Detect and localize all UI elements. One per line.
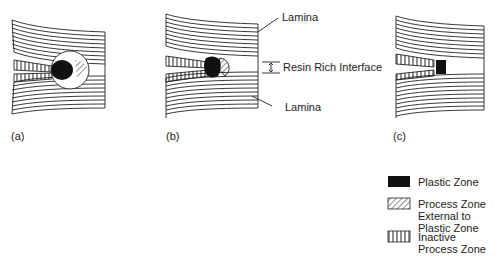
panel-c-diagram bbox=[396, 16, 484, 118]
legend-process-label: Process Zone External to Plastic Zone bbox=[418, 198, 486, 234]
legend-process-swatch bbox=[388, 198, 410, 209]
legend-plastic-label: Plastic Zone bbox=[418, 176, 479, 188]
lamina-top-label: Lamina bbox=[282, 11, 318, 23]
legend-inactive-label: Inactive Process Zone bbox=[418, 231, 486, 255]
panel-b-label: (b) bbox=[166, 130, 179, 142]
legend-plastic-swatch bbox=[388, 176, 410, 187]
panel-a-diagram bbox=[12, 20, 105, 114]
resin-rich-interface-label: Resin Rich Interface bbox=[283, 61, 382, 73]
legend-inactive-swatch bbox=[388, 231, 410, 242]
lamina-bottom-label: Lamina bbox=[285, 101, 321, 113]
panel-b-diagram bbox=[166, 14, 280, 118]
panel-c-label: (c) bbox=[393, 130, 406, 142]
panel-a-label: (a) bbox=[11, 130, 24, 142]
